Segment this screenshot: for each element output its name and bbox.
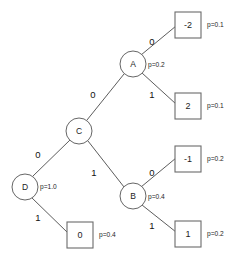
probability-label-b: p=0.4 <box>148 193 165 201</box>
probability-label-leaf-neg1: p=0.2 <box>207 155 224 163</box>
decision-tree-diagram: -2 2 -1 1 0 D C A B 0 1 0 1 <box>0 0 249 265</box>
leaf-label-2: 2 <box>185 101 190 111</box>
edge-label-a-leaf2: 1 <box>149 89 154 100</box>
probability-label-leaf-0: p=0.4 <box>99 231 116 239</box>
edge-c-b-line <box>88 141 124 187</box>
probability-label-d: p=1.0 <box>40 183 57 191</box>
edge-b-leafneg1-line <box>141 158 176 187</box>
leaf-label-1: 1 <box>185 229 190 239</box>
edge-label-b-leaf1: 1 <box>149 220 154 231</box>
edge-group <box>31 26 176 233</box>
edge-a-leafneg2-line <box>141 26 176 55</box>
leaf-label-neg2: -2 <box>184 20 192 30</box>
node-label-d: D <box>22 182 28 192</box>
edge-b-leaf1-line <box>142 205 176 232</box>
edge-a-leaf2-line <box>142 73 176 104</box>
node-label-b: B <box>130 191 136 201</box>
probability-label-leaf-2: p=0.1 <box>207 102 224 110</box>
edge-label-b-leafneg1: 0 <box>149 167 154 178</box>
probability-label-leaf-1: p=0.2 <box>207 230 224 238</box>
edge-label-c-a: 0 <box>90 89 95 100</box>
probability-label-leaf-neg2: p=0.1 <box>207 21 224 29</box>
edge-label-d-c: 0 <box>35 149 40 160</box>
node-group: D C A B <box>12 51 146 209</box>
tree-canvas: -2 2 -1 1 0 D C A B 0 1 0 1 <box>0 0 249 265</box>
leaf-label-0: 0 <box>77 230 82 240</box>
edge-label-a-leafneg2: 0 <box>149 36 154 47</box>
node-label-c: C <box>76 126 82 136</box>
probability-label-a: p=0.2 <box>148 61 165 69</box>
node-label-a: A <box>130 59 136 69</box>
leaf-label-neg1: -1 <box>184 154 192 164</box>
edge-label-d-leaf0: 1 <box>35 212 40 223</box>
edge-label-c-b: 1 <box>91 167 96 178</box>
